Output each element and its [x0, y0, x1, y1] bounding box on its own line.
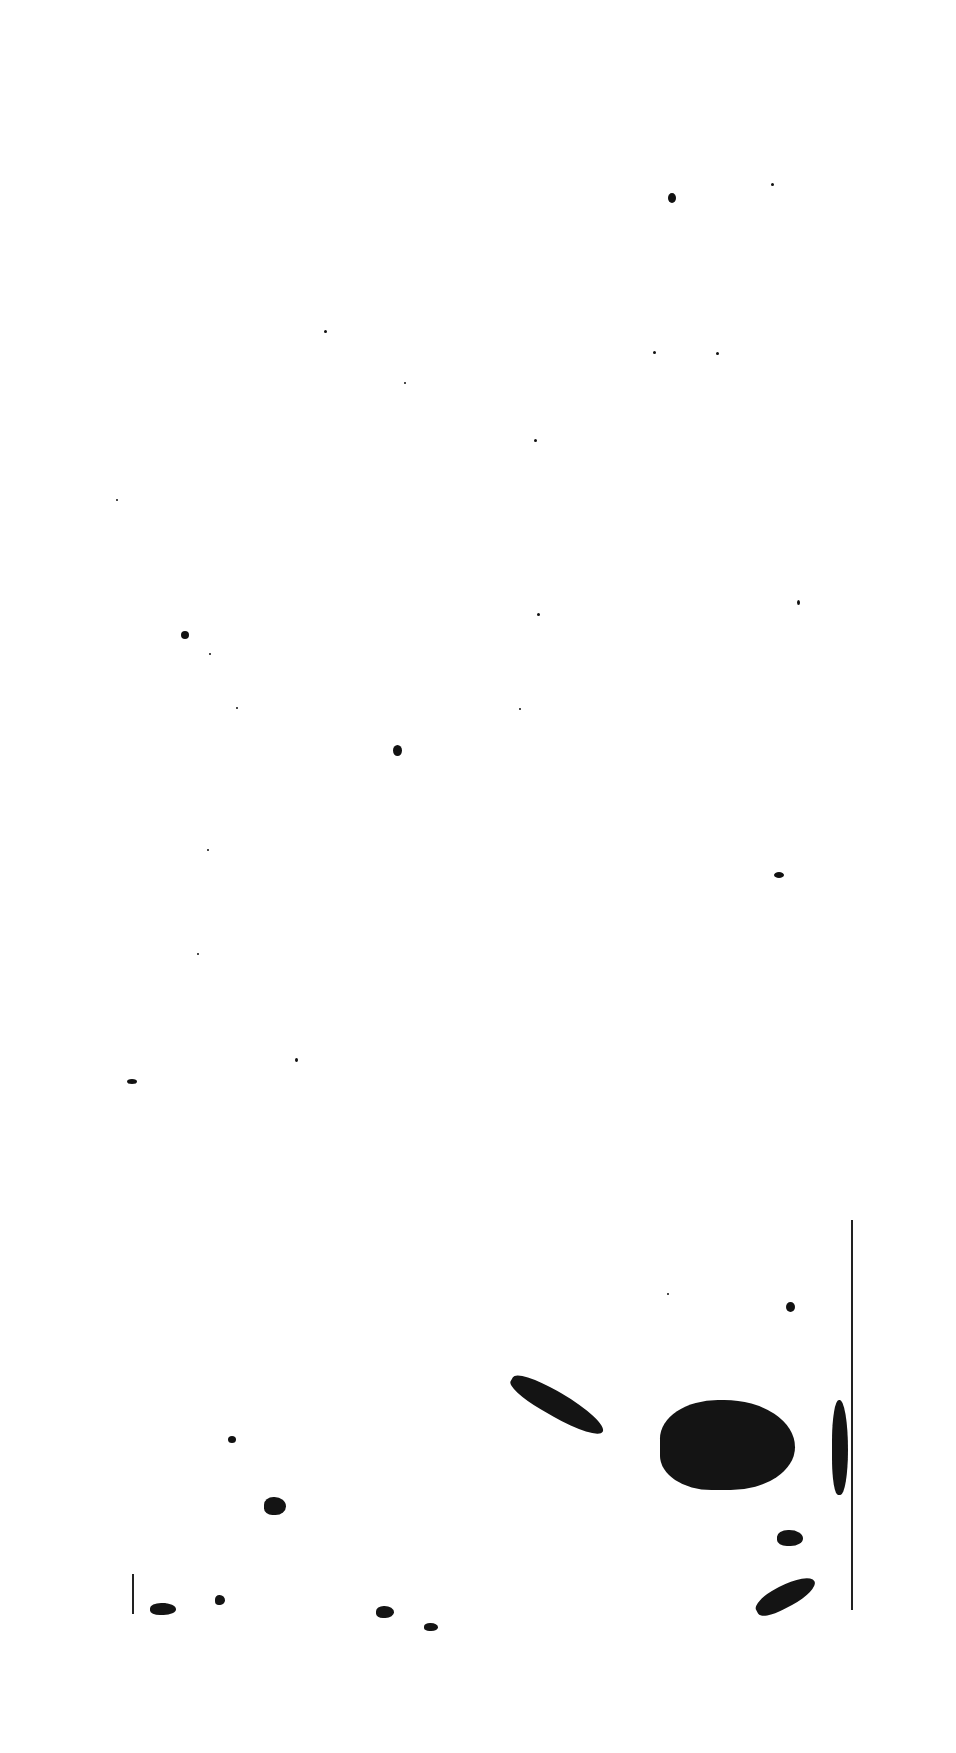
scan-speck [228, 1436, 236, 1443]
scan-speck [534, 439, 537, 442]
scan-speck [295, 1058, 298, 1062]
scan-edge-line [132, 1574, 134, 1614]
scan-speck [653, 351, 656, 354]
scan-speck [668, 193, 676, 203]
scan-blotch [376, 1606, 394, 1618]
scan-edge-line [851, 1220, 853, 1610]
scan-blotch [424, 1623, 438, 1631]
scan-blotch [660, 1400, 795, 1490]
scan-blotch [215, 1595, 225, 1605]
scan-speck [127, 1079, 137, 1084]
scan-speck [786, 1302, 795, 1312]
scan-speck [207, 849, 209, 851]
scan-blotch [752, 1571, 820, 1621]
scan-speck [404, 382, 406, 384]
scan-speck [197, 953, 199, 955]
scan-speck [519, 708, 521, 710]
scan-speck [324, 330, 327, 333]
scan-speck [771, 183, 774, 186]
scan-speck [116, 499, 118, 501]
scan-speck [774, 872, 784, 878]
scan-blotch [777, 1530, 803, 1546]
scan-speck [716, 352, 719, 355]
scan-speck [797, 600, 800, 605]
scan-speck [181, 631, 189, 639]
scan-speck [209, 653, 211, 655]
scan-speck [667, 1293, 669, 1295]
scan-speck [537, 613, 540, 616]
scan-speck [393, 745, 402, 756]
scan-blotch [264, 1497, 286, 1515]
scan-blotch [150, 1603, 176, 1615]
scan-speck [236, 707, 238, 709]
scanned-page [0, 0, 956, 1753]
scan-blotch [506, 1368, 609, 1441]
scan-blotch [832, 1400, 848, 1495]
